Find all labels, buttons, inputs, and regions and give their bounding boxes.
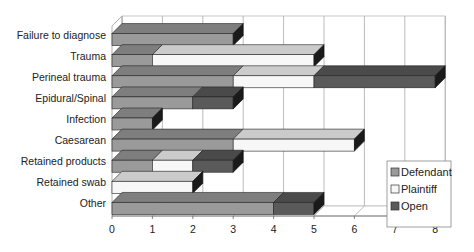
- legend: Defendant Plaintiff Open: [387, 161, 452, 227]
- bar-row: [112, 24, 243, 46]
- bar-segment-open: [193, 87, 243, 109]
- legend-swatch-open: [391, 202, 399, 210]
- legend-swatch-plaintiff: [391, 185, 399, 193]
- x-tick-label: 3: [230, 223, 236, 235]
- bar-row: [112, 45, 324, 67]
- legend-item-defendant: Defendant: [391, 166, 452, 178]
- category-label: Retained products: [21, 155, 106, 167]
- bar-segment-defendant: [112, 24, 243, 46]
- bar-segment-plaintiff: [233, 66, 324, 88]
- legend-item-plaintiff: Plaintiff: [391, 183, 438, 195]
- bar-segment-plaintiff: [112, 171, 203, 193]
- stacked-bar-chart: Failure to diagnoseTraumaPerineal trauma…: [0, 0, 474, 252]
- bar-row: [112, 87, 243, 109]
- x-tick-label: 6: [351, 223, 357, 235]
- bar-segment-defendant: [112, 87, 203, 109]
- bar-row: [112, 192, 324, 214]
- bar-segment-defendant: [112, 129, 243, 151]
- bar-row: [112, 66, 445, 88]
- bar-segment-defendant: [112, 66, 243, 88]
- category-label: Caesarean: [55, 134, 107, 146]
- legend-label-defendant: Defendant: [401, 166, 452, 178]
- category-label: Failure to diagnose: [17, 29, 106, 41]
- bar-row: [112, 129, 364, 151]
- x-tick-label: 1: [149, 223, 155, 235]
- bar-segment-open: [314, 66, 445, 88]
- category-axis-labels: Failure to diagnoseTraumaPerineal trauma…: [17, 29, 107, 210]
- bar-row: [112, 150, 243, 172]
- bar-segment-plaintiff: [233, 129, 364, 151]
- legend-item-open: Open: [391, 200, 428, 212]
- x-tick-label: 5: [311, 223, 317, 235]
- category-label: Retained swab: [37, 176, 107, 188]
- category-label: Trauma: [70, 50, 106, 62]
- x-tick-label: 2: [190, 223, 196, 235]
- category-label: Epidural/Spinal: [35, 92, 106, 104]
- legend-swatch-defendant: [391, 168, 399, 176]
- x-tick-label: 4: [271, 223, 277, 235]
- legend-label-plaintiff: Plaintiff: [401, 183, 438, 195]
- bar-segment-plaintiff: [152, 45, 324, 67]
- bar-row: [112, 171, 203, 193]
- bar-row: [112, 108, 162, 130]
- x-tick-label: 0: [109, 223, 115, 235]
- bar-segment-open: [274, 192, 324, 214]
- category-label: Other: [80, 197, 107, 209]
- legend-label-open: Open: [401, 200, 428, 212]
- category-label: Perineal trauma: [32, 71, 106, 83]
- bar-segment-defendant: [112, 192, 284, 214]
- category-label: Infection: [66, 113, 106, 125]
- bar-segment-open: [193, 150, 243, 172]
- bar-segment-defendant: [112, 108, 162, 130]
